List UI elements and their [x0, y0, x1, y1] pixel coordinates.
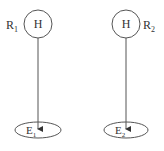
node-h-right-label: H — [122, 17, 131, 31]
target-e2-label: E2 — [115, 124, 126, 139]
node-h-left-label: H — [34, 17, 43, 31]
diagram-canvas: R1 H E1 H R2 E2 — [0, 0, 164, 151]
right-group: H R2 E2 — [104, 10, 155, 139]
region-label-r2: R2 — [143, 18, 155, 34]
left-group: R1 H E1 — [6, 10, 61, 139]
region-label-r1: R1 — [6, 18, 18, 34]
